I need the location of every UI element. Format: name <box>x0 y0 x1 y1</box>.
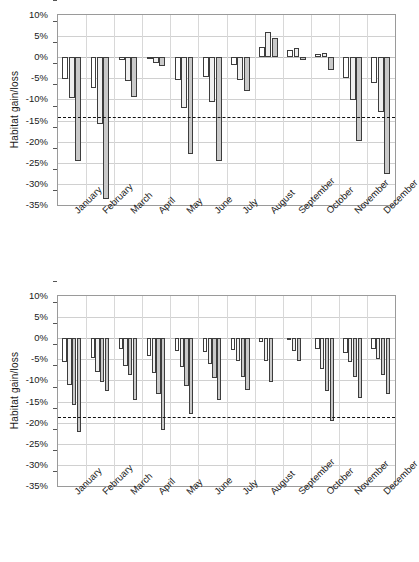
category-separator <box>198 296 199 486</box>
bar-february-series-3 <box>100 338 104 382</box>
category-separator <box>114 15 115 205</box>
bar-december-series-2 <box>376 338 380 359</box>
bar-september-series-1 <box>287 338 291 340</box>
category-separator <box>227 15 228 205</box>
y-tick-mark <box>53 127 57 128</box>
bar-march-series-1 <box>119 57 125 60</box>
bar-april-series-2 <box>153 57 159 63</box>
bar-may-series-3 <box>188 57 194 154</box>
bar-october-series-3 <box>325 338 329 391</box>
category-separator <box>227 296 228 486</box>
y-tick-label: -25% <box>26 437 48 448</box>
bar-december-series-1 <box>371 338 375 349</box>
category-separator <box>339 15 340 205</box>
category-separator <box>311 296 312 486</box>
bar-august-series-2 <box>265 32 271 57</box>
bar-january-series-2 <box>67 338 71 384</box>
y-tick-mark <box>53 190 57 191</box>
bar-july-series-1 <box>231 57 237 65</box>
bar-june-series-3 <box>212 338 216 378</box>
y-tick-mark <box>53 0 57 1</box>
bar-may-series-3 <box>184 338 188 386</box>
category-separator <box>86 15 87 205</box>
category-separator <box>255 296 256 486</box>
category-separator <box>311 15 312 205</box>
y-tick-mark <box>53 429 57 430</box>
bar-may-series-4 <box>189 338 193 414</box>
bar-september-series-1 <box>287 50 293 58</box>
y-tick-label: 10% <box>29 290 48 301</box>
bar-march-series-3 <box>128 338 132 375</box>
category-separator <box>142 296 143 486</box>
category-separator <box>198 15 199 205</box>
y-tick-mark <box>53 42 57 43</box>
bar-october-series-1 <box>315 338 319 349</box>
bar-november-series-4 <box>358 338 362 398</box>
bar-february-series-1 <box>91 57 97 87</box>
y-tick-mark <box>53 365 57 366</box>
y-tick-mark <box>53 84 57 85</box>
bar-october-series-2 <box>320 338 324 369</box>
y-tick-label: -35% <box>26 199 48 210</box>
category-separator <box>339 296 340 486</box>
bar-june-series-1 <box>203 338 207 352</box>
reference-line <box>58 117 395 118</box>
bar-april-series-3 <box>159 57 165 65</box>
y-tick-label: 0% <box>34 51 48 62</box>
bar-july-series-2 <box>237 57 243 79</box>
category-separator <box>170 15 171 205</box>
category-separator <box>114 296 115 486</box>
bar-december-series-4 <box>386 338 390 394</box>
y-tick-mark <box>53 281 57 282</box>
bar-september-series-2 <box>292 338 296 351</box>
bar-april-series-1 <box>147 57 153 59</box>
bar-december-series-3 <box>384 57 390 174</box>
bar-january-series-4 <box>77 338 81 432</box>
bar-may-series-2 <box>180 338 184 366</box>
bar-march-series-1 <box>119 338 123 349</box>
bar-june-series-2 <box>209 57 215 101</box>
bar-september-series-3 <box>300 57 306 60</box>
bar-december-series-2 <box>378 57 384 112</box>
bar-november-series-2 <box>350 57 356 100</box>
bar-march-series-4 <box>133 338 137 400</box>
y-tick-mark <box>53 169 57 170</box>
bar-february-series-3 <box>103 57 109 199</box>
bar-september-series-2 <box>294 48 300 57</box>
bar-january-series-3 <box>72 338 76 405</box>
y-tick-label: -20% <box>26 416 48 427</box>
y-tick-label: 10% <box>29 9 48 20</box>
bar-october-series-1 <box>315 54 321 57</box>
bar-march-series-3 <box>131 57 137 97</box>
y-tick-label: 5% <box>34 30 48 41</box>
y-tick-mark <box>53 106 57 107</box>
bar-may-series-1 <box>175 338 179 351</box>
bar-april-series-1 <box>147 338 151 355</box>
y-tick-label: -10% <box>26 374 48 385</box>
y-tick-mark <box>53 63 57 64</box>
bar-october-series-3 <box>328 57 334 70</box>
category-separator <box>283 15 284 205</box>
bar-november-series-2 <box>348 338 352 362</box>
bar-july-series-3 <box>241 338 245 376</box>
y-tick-mark <box>53 471 57 472</box>
chart-panel-top: Habitat gain/loss 10%5%0%-5%-10%-15%-20%… <box>0 0 402 281</box>
y-tick-label: -30% <box>26 458 48 469</box>
y-tick-mark <box>53 450 57 451</box>
y-tick-mark <box>53 21 57 22</box>
bar-november-series-1 <box>343 57 349 78</box>
bar-february-series-1 <box>91 338 95 358</box>
bar-december-series-1 <box>371 57 377 83</box>
bar-january-series-1 <box>62 338 66 362</box>
bar-february-series-2 <box>97 57 103 123</box>
y-tick-label: -15% <box>26 114 48 125</box>
reference-line <box>58 417 395 418</box>
category-separator <box>255 15 256 205</box>
bar-july-series-3 <box>244 57 250 91</box>
plot-area-bottom <box>57 295 396 487</box>
bar-july-series-2 <box>236 338 240 361</box>
bar-june-series-3 <box>216 57 222 161</box>
bar-november-series-3 <box>356 57 362 141</box>
bar-april-series-3 <box>156 338 160 394</box>
y-tick-label: 5% <box>34 311 48 322</box>
